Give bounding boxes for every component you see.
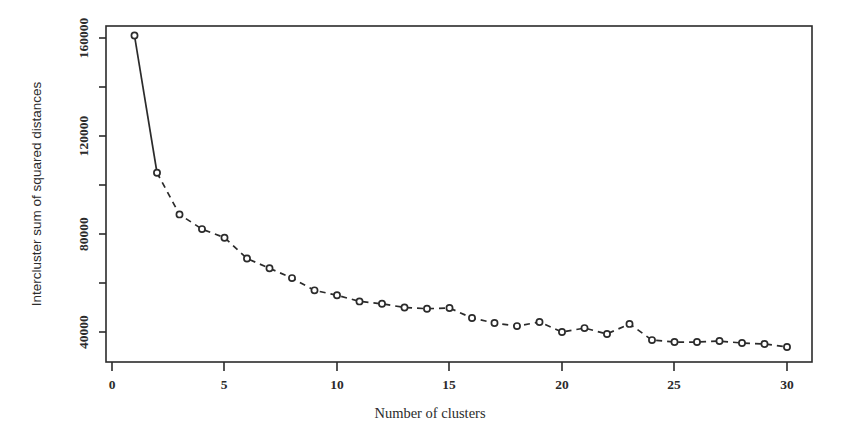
data-series — [131, 32, 790, 350]
chart-figure: 160000 120000 80000 40000 0 5 10 15 20 2… — [0, 0, 853, 444]
data-point-marker — [716, 338, 722, 344]
data-point-marker — [176, 211, 182, 217]
data-point-marker — [694, 339, 700, 345]
x-tick-label-10: 10 — [330, 377, 344, 392]
x-tick-label-30: 30 — [780, 377, 794, 392]
data-point-marker — [784, 344, 790, 350]
data-point-marker — [356, 298, 362, 304]
x-tick-label-25: 25 — [667, 377, 681, 392]
data-point-marker — [379, 301, 385, 307]
x-axis-tick-labels: 0 5 10 15 20 25 30 — [109, 377, 794, 392]
y-axis-tick-labels: 160000 120000 80000 40000 — [76, 18, 91, 349]
x-tick-label-15: 15 — [442, 377, 456, 392]
y-tick-label-160000: 160000 — [76, 18, 91, 59]
y-tick-label-80000: 80000 — [76, 217, 91, 251]
plot-frame — [106, 26, 812, 362]
data-point-marker — [491, 320, 497, 326]
data-point-marker — [289, 275, 295, 281]
x-tick-label-5: 5 — [221, 377, 228, 392]
y-axis-ticks — [99, 38, 106, 332]
data-point-marker — [469, 315, 475, 321]
data-point-marker — [266, 265, 272, 271]
data-point-marker — [199, 226, 205, 232]
data-point-marker — [626, 321, 632, 327]
data-point-marker — [739, 340, 745, 346]
x-axis-title: Number of clusters — [374, 405, 485, 421]
data-point-marker — [244, 255, 250, 261]
x-tick-label-20: 20 — [555, 377, 569, 392]
y-axis-title: Intercluster sum of squared distances — [29, 82, 44, 307]
data-point-marker — [334, 292, 340, 298]
data-point-marker — [536, 319, 542, 325]
data-point-marker — [221, 235, 227, 241]
data-point-marker — [581, 325, 587, 331]
x-axis-ticks — [112, 362, 787, 371]
data-point-marker — [604, 331, 610, 337]
data-point-marker — [446, 305, 452, 311]
line-chart-svg: 160000 120000 80000 40000 0 5 10 15 20 2… — [0, 0, 853, 444]
data-point-marker — [154, 170, 160, 176]
data-point-marker — [671, 339, 677, 345]
y-tick-label-40000: 40000 — [76, 315, 91, 349]
y-tick-label-120000: 120000 — [76, 116, 91, 157]
data-point-marker — [401, 304, 407, 310]
data-point-marker — [311, 287, 317, 293]
data-point-marker — [514, 323, 520, 329]
data-point-marker — [649, 337, 655, 343]
data-point-marker — [559, 329, 565, 335]
data-point-marker — [131, 32, 137, 38]
data-point-marker — [424, 306, 430, 312]
x-tick-label-0: 0 — [109, 377, 116, 392]
series-segment-solid — [135, 36, 158, 173]
data-point-marker — [761, 341, 767, 347]
